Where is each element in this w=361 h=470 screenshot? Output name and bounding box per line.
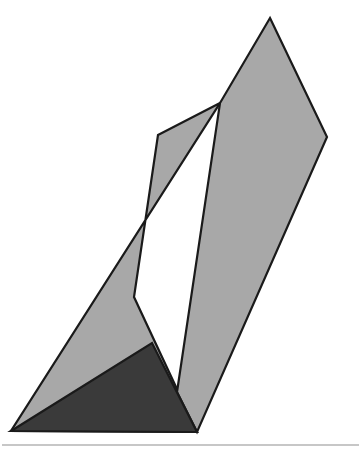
illustration-canvas: Shaded geometric solid illustration	[0, 0, 361, 470]
geometric-figure: Shaded geometric solid illustration	[0, 0, 361, 470]
